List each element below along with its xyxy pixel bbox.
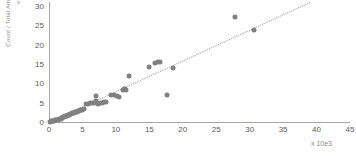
y-tick-0: 0 [20, 118, 44, 127]
x-axis-line [49, 122, 350, 123]
data-point [103, 99, 108, 104]
x-axis-unit-label: x 10e3 [311, 140, 332, 147]
y-tick-15: 15 [20, 59, 44, 68]
y-axis-title: Count / Total Amount [5, 0, 11, 63]
data-point [171, 66, 176, 71]
data-point [251, 27, 256, 32]
data-point [158, 59, 163, 64]
data-point [164, 92, 169, 97]
x-tick-10: 10 [111, 125, 120, 134]
data-point [126, 74, 131, 79]
x-tick-0: 0 [47, 125, 51, 134]
x-tick-35: 35 [279, 125, 288, 134]
x-tick-15: 15 [145, 125, 154, 134]
x-tick-40: 40 [312, 125, 321, 134]
y-tick-20: 20 [20, 40, 44, 49]
y-tick-5: 5 [20, 98, 44, 107]
y-tick-30: 30 [20, 1, 44, 10]
x-tick-5: 5 [80, 125, 84, 134]
data-point [232, 15, 237, 20]
y-tick-10: 10 [20, 79, 44, 88]
data-point [116, 94, 121, 99]
y-tick-25: 25 [20, 21, 44, 30]
x-tick-20: 20 [178, 125, 187, 134]
x-tick-45: 45 [346, 125, 355, 134]
data-point [146, 64, 151, 69]
x-tick-30: 30 [245, 125, 254, 134]
y-axis-tick-labels: 051015202530 [20, 0, 44, 124]
data-point [82, 106, 87, 111]
x-tick-25: 25 [212, 125, 221, 134]
y-axis-line [49, 2, 50, 122]
scatter-chart: Count / Total Amount x 051015202530 0510… [0, 0, 356, 156]
data-point [123, 87, 128, 92]
